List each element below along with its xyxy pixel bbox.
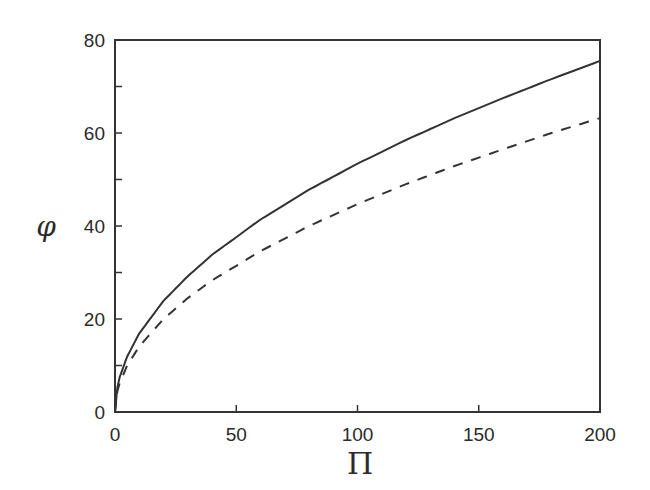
x-tick-label: 50	[226, 424, 247, 445]
x-tick-label: 100	[342, 424, 374, 445]
series-solid-line	[115, 61, 600, 412]
x-tick-label: 150	[463, 424, 495, 445]
plot-frame	[115, 40, 600, 412]
x-axis-title: Π	[347, 446, 373, 481]
y-tick-label: 0	[94, 402, 105, 423]
line-chart: 020406080 050100150200 Π φ	[0, 0, 650, 490]
y-tick-label: 60	[84, 123, 105, 144]
x-tick-label: 200	[584, 424, 616, 445]
y-tick-label: 80	[84, 30, 105, 51]
series-dashed-line	[115, 118, 600, 412]
plot-border	[115, 40, 600, 412]
x-tick-label: 0	[110, 424, 121, 445]
y-tick-label: 20	[84, 309, 105, 330]
y-axis-ticks: 020406080	[84, 30, 122, 423]
y-axis-title: φ	[36, 210, 56, 243]
y-tick-label: 40	[84, 216, 105, 237]
data-series	[115, 61, 600, 412]
